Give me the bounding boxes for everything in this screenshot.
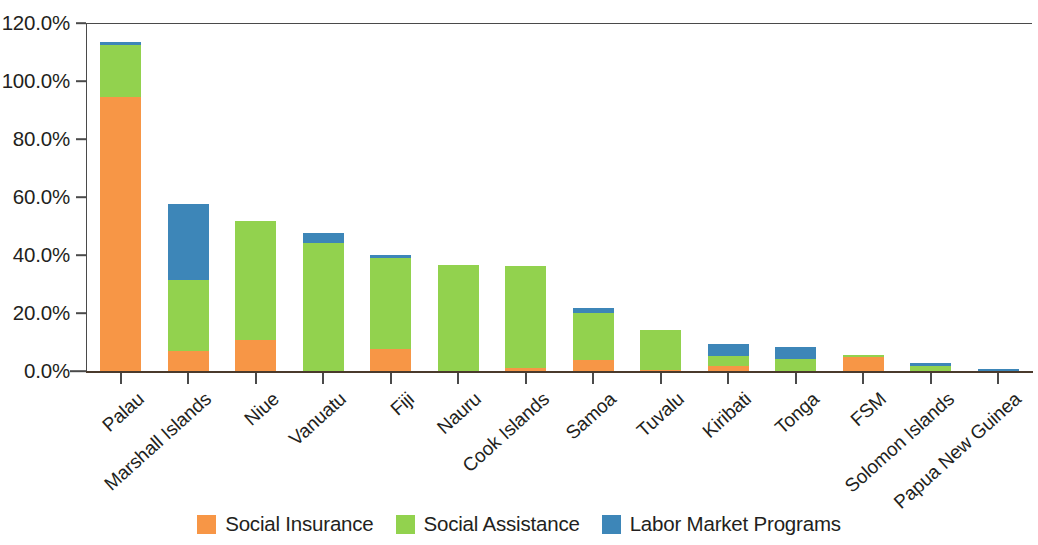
bar-segment-social-assistance[interactable] <box>775 359 816 372</box>
bar-segment-social-assistance[interactable] <box>573 313 614 361</box>
x-axis-category-label: Samoa <box>562 388 621 444</box>
bar-slot <box>505 266 546 372</box>
x-axis-tick-mark <box>390 373 392 384</box>
bar-segment-social-insurance[interactable] <box>843 357 884 372</box>
y-axis-tick-label: 0.0% <box>24 359 70 383</box>
bar-slot <box>640 330 681 372</box>
bar-segment-labor-market-programs[interactable] <box>775 347 816 358</box>
stacked-bar-chart: 0.0%20.0%40.0%60.0%80.0%100.0%120.0% Pal… <box>0 0 1038 545</box>
bar-slot <box>573 308 614 372</box>
x-axis-category-label: Nauru <box>433 388 486 439</box>
legend-label: Labor Market Programs <box>630 512 841 536</box>
x-axis-tick-mark <box>457 373 459 384</box>
legend-item[interactable]: Labor Market Programs <box>602 512 841 536</box>
bar-segment-labor-market-programs[interactable] <box>303 233 344 243</box>
y-axis-tick-mark <box>76 138 86 140</box>
bar-slot <box>843 355 884 372</box>
stacked-bar[interactable] <box>303 233 344 372</box>
y-axis-tick-label: 80.0% <box>13 127 70 151</box>
y-axis-tick-label: 40.0% <box>13 243 70 267</box>
x-axis-tick-mark <box>727 373 729 384</box>
bar-slot <box>438 265 479 372</box>
y-axis-tick-mark <box>76 80 86 82</box>
bar-slot <box>235 221 276 372</box>
x-axis-baseline <box>86 371 1033 373</box>
bar-segment-social-insurance[interactable] <box>370 349 411 372</box>
y-axis-tick-mark <box>70 370 86 372</box>
bar-segment-social-insurance[interactable] <box>100 97 141 372</box>
x-axis-category-label: Niue <box>240 388 283 430</box>
chart-legend: Social InsuranceSocial AssistanceLabor M… <box>0 512 1038 536</box>
legend-item[interactable]: Social Insurance <box>197 512 373 536</box>
stacked-bar[interactable] <box>843 355 884 372</box>
x-axis-category-label: Tonga <box>771 388 824 439</box>
bar-segment-social-assistance[interactable] <box>640 330 681 370</box>
bar-slot <box>370 255 411 372</box>
bars-layer <box>87 24 1032 372</box>
stacked-bar[interactable] <box>775 347 816 372</box>
bar-segment-social-assistance[interactable] <box>303 243 344 372</box>
bar-segment-labor-market-programs[interactable] <box>708 344 749 356</box>
x-axis-category-label: Fiji <box>386 388 418 420</box>
x-axis-category-label: Vanuatu <box>285 388 351 450</box>
x-axis-tick-mark <box>187 373 189 384</box>
stacked-bar[interactable] <box>168 204 209 372</box>
x-axis-category-label: Papua New Guinea <box>890 388 1026 514</box>
y-axis-tick-label: 20.0% <box>13 301 70 325</box>
bar-segment-social-insurance[interactable] <box>235 340 276 372</box>
bar-segment-social-assistance[interactable] <box>235 221 276 339</box>
bar-slot <box>100 42 141 372</box>
x-axis-tick-mark <box>997 373 999 384</box>
x-axis-tick-mark <box>660 373 662 384</box>
x-axis-tick-mark <box>592 373 594 384</box>
blue-swatch <box>602 515 621 534</box>
bar-segment-social-assistance[interactable] <box>708 356 749 366</box>
bar-slot <box>775 347 816 372</box>
y-axis-tick-mark <box>76 312 86 314</box>
bar-slot <box>708 344 749 372</box>
legend-label: Social Assistance <box>424 512 580 536</box>
y-axis-tick-label: 100.0% <box>2 69 70 93</box>
x-axis-category-label: Kiribati <box>699 388 756 443</box>
y-axis-tick-mark <box>76 254 86 256</box>
x-axis-tick-mark <box>322 373 324 384</box>
bar-segment-social-assistance[interactable] <box>370 258 411 350</box>
bar-segment-labor-market-programs[interactable] <box>168 204 209 280</box>
x-axis-tick-mark <box>120 373 122 384</box>
x-axis-tick-mark <box>795 373 797 384</box>
stacked-bar[interactable] <box>370 255 411 372</box>
stacked-bar[interactable] <box>708 344 749 372</box>
bar-segment-social-assistance[interactable] <box>100 45 141 97</box>
legend-label: Social Insurance <box>225 512 373 536</box>
x-axis-category-label: Palau <box>98 388 148 437</box>
stacked-bar[interactable] <box>640 330 681 372</box>
bar-segment-social-insurance[interactable] <box>168 351 209 372</box>
x-axis-tick-mark <box>862 373 864 384</box>
x-axis-category-label: Tuvalu <box>632 388 688 442</box>
x-axis-tick-mark <box>525 373 527 384</box>
bar-slot <box>168 204 209 372</box>
y-axis: 0.0%20.0%40.0%60.0%80.0%100.0%120.0% <box>0 0 84 380</box>
y-axis-tick-mark <box>76 196 86 198</box>
stacked-bar[interactable] <box>100 42 141 372</box>
y-axis-tick-label: 60.0% <box>13 185 70 209</box>
bar-slot <box>303 233 344 372</box>
green-swatch <box>396 515 415 534</box>
plot-area <box>86 23 1032 372</box>
stacked-bar[interactable] <box>573 308 614 372</box>
x-axis-tick-mark <box>255 373 257 384</box>
stacked-bar[interactable] <box>438 265 479 372</box>
stacked-bar[interactable] <box>235 221 276 372</box>
y-axis-tick-mark <box>76 22 86 24</box>
orange-swatch <box>197 515 216 534</box>
x-axis-tick-mark <box>930 373 932 384</box>
legend-item[interactable]: Social Assistance <box>396 512 580 536</box>
bar-segment-social-assistance[interactable] <box>438 265 479 372</box>
bar-segment-social-assistance[interactable] <box>505 266 546 368</box>
y-axis-tick-label: 120.0% <box>2 11 70 35</box>
bar-segment-social-assistance[interactable] <box>168 280 209 350</box>
stacked-bar[interactable] <box>505 266 546 372</box>
x-axis-category-label: FSM <box>847 388 891 431</box>
